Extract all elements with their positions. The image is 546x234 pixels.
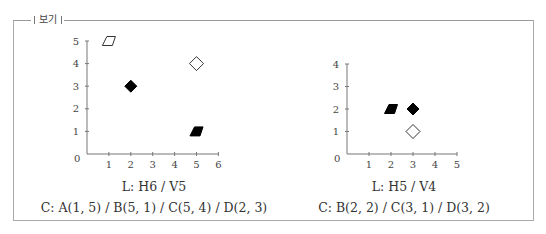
marker-D-diamond xyxy=(407,103,419,115)
chart2-caption-line1: L: H5 / V4 xyxy=(372,179,436,194)
x-tick-label: 4 xyxy=(171,159,177,170)
chart1-caption-line1: L: H6 / V5 xyxy=(122,179,186,194)
x-tick-label: 3 xyxy=(150,159,156,170)
x-tick-label: 5 xyxy=(454,159,460,170)
y-tick-label: 3 xyxy=(333,81,339,92)
marker-C-diamond xyxy=(190,57,204,71)
marker-C-diamond xyxy=(406,125,420,139)
y-tick-label: 1 xyxy=(73,126,79,137)
x-tick-label: 2 xyxy=(388,159,394,170)
marker-D-diamond xyxy=(125,80,137,92)
y-tick-label: 2 xyxy=(73,103,79,114)
x-tick-label: 2 xyxy=(128,159,134,170)
x-tick-label: 3 xyxy=(410,159,416,170)
y-tick-label: 2 xyxy=(333,104,339,115)
scatter-plots: 0123456123450123451234 xyxy=(0,0,546,234)
y-tick-label: 4 xyxy=(73,58,79,69)
y-tick-label: 4 xyxy=(333,59,339,70)
x-tick-label: 4 xyxy=(432,159,438,170)
x-tick-label: 6 xyxy=(215,159,221,170)
x-tick-label: 5 xyxy=(193,159,199,170)
x-tick-label: 1 xyxy=(366,159,372,170)
y-tick-label: 5 xyxy=(73,36,79,47)
origin-label: 0 xyxy=(334,153,340,164)
marker-B-parallelogram xyxy=(385,105,398,114)
marker-A-parallelogram xyxy=(102,37,115,46)
x-tick-label: 1 xyxy=(106,159,112,170)
chart1-caption-line2: C: A(1, 5) / B(5, 1) / C(5, 4) / D(2, 3) xyxy=(41,200,267,215)
marker-B-parallelogram xyxy=(190,127,203,136)
chart2-caption-line2: C: B(2, 2) / C(3, 1) / D(3, 2) xyxy=(318,200,490,215)
y-tick-label: 3 xyxy=(73,81,79,92)
y-tick-label: 1 xyxy=(333,126,339,137)
origin-label: 0 xyxy=(74,153,80,164)
